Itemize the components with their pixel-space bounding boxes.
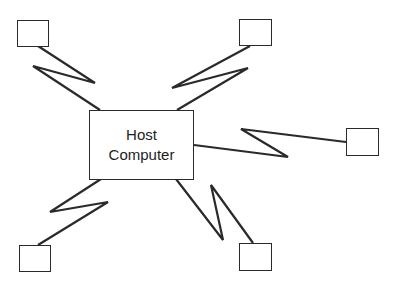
terminal-bottom-left xyxy=(19,245,51,272)
terminal-top-right xyxy=(239,19,272,46)
link-top-right xyxy=(172,46,250,110)
link-top-left xyxy=(33,46,100,110)
host-computer-box: Host Computer xyxy=(89,110,194,180)
host-label-line1: Host xyxy=(126,125,157,145)
link-bottom-left xyxy=(38,179,108,245)
terminal-top-left xyxy=(17,20,49,47)
link-layer xyxy=(0,0,399,283)
link-right xyxy=(194,129,346,157)
link-bottom-right xyxy=(176,179,253,243)
terminal-right xyxy=(346,128,379,156)
host-label-line2: Computer xyxy=(109,145,175,165)
terminal-bottom-right xyxy=(239,243,272,271)
